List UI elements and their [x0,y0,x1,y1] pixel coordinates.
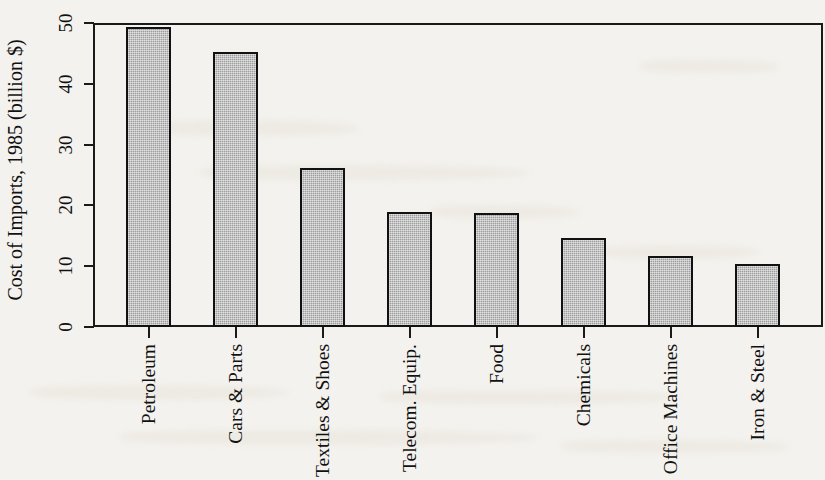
bar [126,27,171,327]
x-axis-tick [235,327,237,338]
bar [735,264,780,327]
y-axis-tick-label-text: 0 [56,322,75,332]
y-axis-tick [84,326,94,328]
y-axis-tick-label-text: 30 [56,135,75,154]
x-axis-tick-label-text: Cars & Parts [226,344,246,444]
bar [300,168,345,327]
x-axis-tick [409,327,411,338]
x-axis-tick-label-text: Office Machines [661,344,681,474]
y-axis-tick-label-text: 40 [56,74,75,93]
y-axis-tick [84,204,94,206]
x-axis-tick-label-text: Textiles & Shoes [313,344,333,477]
y-axis-title: Cost of Imports, 1985 (billion $) [0,0,30,340]
x-axis-tick [322,327,324,338]
x-axis-tick [670,327,672,338]
bar-series [95,23,823,327]
y-axis-tick [84,22,94,24]
chart-figure: Cost of Imports, 1985 (billion $) 010203… [0,0,825,480]
x-axis-tick-label-text: Iron & Steel [748,344,768,440]
x-axis-tick-label-text: Telecom. Equip. [400,344,420,472]
y-axis-title-text: Cost of Imports, 1985 (billion $) [5,39,25,300]
bar [474,213,519,327]
y-axis-tick-label-text: 50 [56,14,75,33]
x-axis-tick-label-text: Chemicals [574,344,594,426]
x-axis-tick-label-text: Petroleum [139,344,159,424]
bar [561,238,606,327]
y-axis-tick-label-text: 10 [56,257,75,276]
y-axis-tick [84,144,94,146]
x-axis-tick [583,327,585,338]
x-axis-tick [496,327,498,338]
y-axis-tick [84,265,94,267]
x-axis-tick [148,327,150,338]
bar [648,256,693,327]
bar [387,212,432,327]
x-axis-tick [757,327,759,338]
y-axis-tick [84,83,94,85]
bar [213,52,258,327]
y-axis-tick-label-text: 20 [56,196,75,215]
scan-artifact [380,390,680,404]
x-axis-tick-label-text: Food [487,344,507,384]
scan-artifact [30,385,290,400]
